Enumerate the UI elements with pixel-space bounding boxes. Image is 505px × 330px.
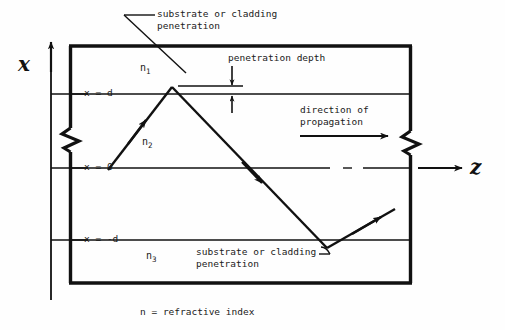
figure-canvas: x z x = d x = 0 x = -d n1 n2 n3 substrat…: [0, 0, 505, 330]
penetration-depth-indicator: [178, 66, 243, 113]
bottom-callout-line2: penetration: [196, 258, 259, 269]
top-callout-line1: substrate or cladding: [157, 8, 277, 19]
break-symbol-left: [62, 128, 79, 152]
tick-label-x-equals-0: x = 0: [84, 161, 113, 172]
waveguide-diagram-svg: [0, 0, 505, 330]
z-axis-label: z: [470, 155, 481, 179]
refractive-index-label-n1: n1: [140, 62, 151, 76]
penetration-depth-label: penetration depth: [228, 52, 325, 63]
bottom-callout-line1: substrate or cladding: [196, 246, 316, 257]
figure-caption: n = refractive index: [140, 306, 254, 317]
x-axis-label: x: [18, 52, 30, 76]
propagation-label-line1: direction of: [300, 104, 369, 115]
top-callout-line2: penetration: [157, 20, 220, 31]
refractive-index-label-n3: n3: [146, 250, 157, 264]
refractive-index-label-n2: n2: [142, 136, 153, 150]
propagation-label-line2: propagation: [300, 116, 363, 127]
break-symbol-right: [402, 131, 419, 155]
tick-label-x-equals-d: x = d: [84, 87, 113, 98]
tick-label-x-equals-minus-d: x = -d: [84, 233, 118, 244]
